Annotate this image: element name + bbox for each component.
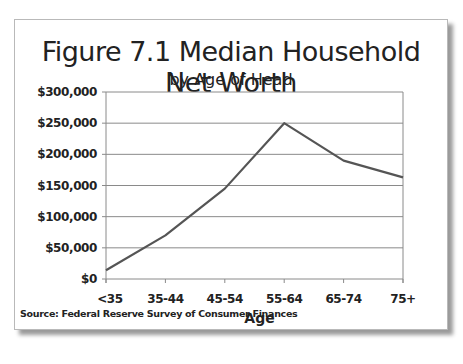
x-tick-label: 35-44: [147, 292, 183, 306]
y-tick-label: $250,000: [37, 116, 97, 130]
x-tick-label: 75+: [390, 292, 416, 306]
x-tick-label: <35: [97, 292, 123, 306]
y-tick-label: $200,000: [37, 147, 97, 161]
partial-page-text: [30, 0, 120, 2]
y-tick-label: $50,000: [45, 241, 97, 255]
x-tick-label: 65-74: [325, 292, 361, 306]
x-tick-label: 55-64: [266, 292, 302, 306]
y-tick-label: $0: [81, 272, 97, 286]
x-tick-label: 45-54: [207, 292, 243, 306]
y-tick-label: $300,000: [37, 85, 97, 99]
y-tick-label: $150,000: [37, 179, 97, 193]
plot-area: $0$50,000$100,000$150,000$200,000$250,00…: [15, 20, 447, 329]
y-tick-label: $100,000: [37, 210, 97, 224]
source-note: Source: Federal Reserve Survey of Consum…: [20, 308, 297, 319]
chart-figure: Figure 7.1 Median Household Net Worth by…: [14, 19, 448, 330]
